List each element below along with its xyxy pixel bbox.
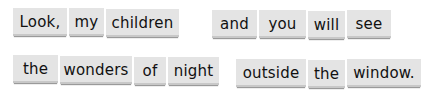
word-tile[interactable]: window. bbox=[347, 59, 421, 87]
word-tile[interactable]: you bbox=[259, 10, 306, 38]
word-tile[interactable]: outside bbox=[236, 59, 306, 87]
word-tile[interactable]: Look, bbox=[13, 8, 67, 36]
word-tile[interactable]: will bbox=[308, 11, 345, 39]
word-tile[interactable]: see bbox=[347, 10, 391, 38]
word-tile[interactable]: night bbox=[168, 57, 219, 85]
word-tile[interactable]: the bbox=[308, 60, 345, 88]
word-tile[interactable]: children bbox=[106, 9, 179, 37]
word-tile[interactable]: of bbox=[134, 57, 166, 85]
word-tile[interactable]: the bbox=[13, 55, 58, 83]
word-tile[interactable]: and bbox=[212, 10, 257, 38]
word-tile[interactable]: wonders bbox=[60, 56, 132, 84]
word-tile[interactable]: my bbox=[69, 8, 104, 36]
